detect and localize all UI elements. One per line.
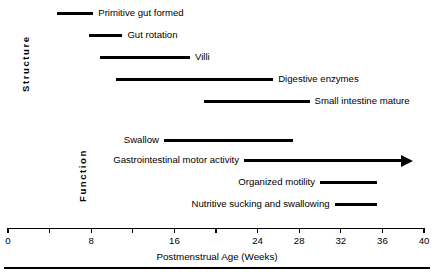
bar-label: Nutritive sucking and swallowing xyxy=(191,197,329,211)
axis-tick xyxy=(257,228,258,233)
axis-tick-label: 8 xyxy=(89,235,94,246)
axis-tick-label: 36 xyxy=(377,235,388,246)
timeline-bar xyxy=(116,78,273,81)
bar-row: Swallow xyxy=(0,133,434,147)
axis-tick xyxy=(215,228,216,233)
bar-label: Villi xyxy=(195,50,210,64)
axis-tick xyxy=(91,228,92,233)
bar-row: Organized motility xyxy=(0,175,434,189)
bar-row: Digestive enzymes xyxy=(0,72,434,86)
axis-tick xyxy=(340,228,341,233)
bar-row: Primitive gut formed xyxy=(0,6,434,20)
axis-tick xyxy=(299,228,300,233)
bar-row: Small intestine mature xyxy=(0,94,434,108)
axis-tick-label: 32 xyxy=(335,235,346,246)
axis-tick-label: 0 xyxy=(5,235,10,246)
axis-tick-label: 40 xyxy=(419,235,430,246)
timeline-bar xyxy=(57,12,93,15)
axis-tick xyxy=(132,228,133,233)
timeline-bar xyxy=(204,100,310,103)
timeline-bar xyxy=(100,56,190,59)
timeline-bar xyxy=(320,181,377,184)
axis-tick xyxy=(49,228,50,233)
bar-label: Gut rotation xyxy=(127,28,177,42)
bar-label: Primitive gut formed xyxy=(98,6,183,20)
axis-tick xyxy=(382,228,383,233)
bar-label: Digestive enzymes xyxy=(278,72,359,86)
axis-tick xyxy=(7,228,8,233)
arrow-head-icon xyxy=(401,155,413,167)
bar-label: Organized motility xyxy=(238,175,315,189)
axis-tick-label: 16 xyxy=(169,235,180,246)
axis-tick-label: 24 xyxy=(252,235,263,246)
x-axis: 08162428323640 Postmenstrual Age (Weeks) xyxy=(0,228,434,268)
axis-tick xyxy=(174,228,175,233)
axis-tick xyxy=(423,228,424,233)
bar-label: Small intestine mature xyxy=(315,94,410,108)
timeline-bar xyxy=(164,139,293,142)
bar-label: Gastrointestinal motor activity xyxy=(113,153,239,167)
bar-row: Gastrointestinal motor activity xyxy=(0,153,434,167)
bar-label: Swallow xyxy=(124,133,159,147)
timeline-bar xyxy=(335,203,378,206)
axis-tick-label: 28 xyxy=(294,235,305,246)
timeline-bar xyxy=(244,159,401,162)
bar-row: Nutritive sucking and swallowing xyxy=(0,197,434,211)
timeline-bar xyxy=(89,34,122,37)
bottom-rule-divider xyxy=(4,267,430,269)
timeline-figure: Structure Function Primitive gut formedG… xyxy=(0,0,434,274)
bar-row: Villi xyxy=(0,50,434,64)
x-axis-title: Postmenstrual Age (Weeks) xyxy=(0,251,434,262)
bar-row: Gut rotation xyxy=(0,28,434,42)
